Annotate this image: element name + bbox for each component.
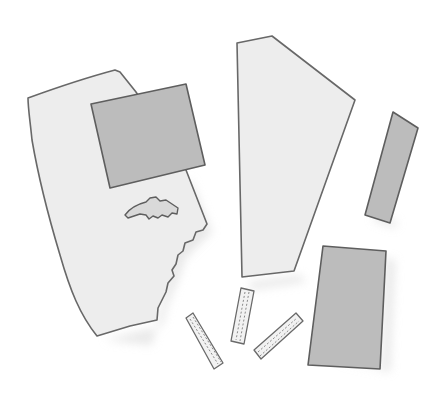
dark-rectangle-bottom-right bbox=[308, 246, 386, 369]
dark-rectangle-top-left bbox=[91, 84, 205, 188]
pieces-illustration bbox=[0, 0, 444, 405]
tall-light-polygon-piece bbox=[237, 36, 355, 277]
small-stitched-strip-1 bbox=[186, 313, 223, 369]
narrow-dark-strip bbox=[365, 112, 418, 223]
small-stitched-strip-3 bbox=[254, 313, 303, 359]
illustration-canvas bbox=[0, 0, 444, 405]
small-stitched-strip-2 bbox=[231, 288, 254, 344]
